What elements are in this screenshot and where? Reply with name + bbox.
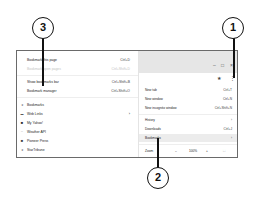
divider bbox=[139, 114, 238, 115]
chevron-right-icon: › bbox=[129, 110, 130, 118]
menu-item-bookmarks[interactable]: Bookmarks › bbox=[139, 134, 238, 142]
menu-item-downloads[interactable]: Downloads Ctrl+J bbox=[139, 125, 238, 133]
menu-item-new-tab[interactable]: New tab Ctrl+T bbox=[139, 86, 238, 94]
bookmark-item-my-yahoo[interactable]: ■ My Yahoo! bbox=[17, 119, 138, 127]
browser-menu-panel: – □ × ★ ⋮ New tab Ctrl+T New window Ctrl… bbox=[138, 51, 238, 157]
star-icon: ★ bbox=[20, 148, 24, 152]
chevron-right-icon: › bbox=[231, 116, 232, 124]
menu-item-bookmark-open-pages: Bookmark open pages Ctrl+Shift+D bbox=[17, 65, 138, 73]
zoom-row: Zoom – 100% + ⛶ bbox=[139, 147, 238, 155]
browser-toolbar: ★ ⋮ bbox=[139, 75, 238, 83]
yahoo-icon: ■ bbox=[20, 121, 24, 125]
weather-icon: ~ bbox=[20, 130, 24, 134]
zoom-out-button[interactable]: – bbox=[175, 147, 177, 155]
minimize-button[interactable]: – bbox=[213, 62, 216, 68]
browser-titlebar: – □ × bbox=[139, 51, 238, 73]
bookmark-item-web-links[interactable]: ▬ Web Links › bbox=[17, 110, 138, 118]
fullscreen-icon[interactable]: ⛶ bbox=[223, 147, 225, 155]
callout-2: 2 bbox=[147, 167, 169, 189]
bookmark-item-bookmarks[interactable]: ★ Bookmarks bbox=[17, 101, 138, 109]
callout-line-2 bbox=[157, 138, 159, 168]
callout-1: 1 bbox=[222, 17, 244, 39]
menu-item-bookmark-this-page[interactable]: Bookmark this page Ctrl+D bbox=[17, 56, 138, 64]
bookmark-star-icon[interactable]: ★ bbox=[217, 75, 221, 81]
menu-item-history[interactable]: History › bbox=[139, 116, 238, 124]
callout-line-1 bbox=[233, 36, 235, 78]
menu-item-show-bookmarks-bar[interactable]: Show bookmarks bar Ctrl+Shift+B bbox=[17, 78, 138, 86]
menu-item-bookmark-manager[interactable]: Bookmark manager Ctrl+Shift+O bbox=[17, 87, 138, 95]
menu-item-new-window[interactable]: New window Ctrl+N bbox=[139, 95, 238, 103]
star-icon: ★ bbox=[20, 103, 24, 107]
zoom-level: 100% bbox=[189, 147, 197, 155]
divider bbox=[139, 144, 238, 145]
divider bbox=[17, 75, 138, 76]
callout-3: 3 bbox=[32, 17, 54, 39]
bookmark-item-startribune[interactable]: ★ StarTribune bbox=[17, 146, 138, 154]
zoom-in-button[interactable]: + bbox=[206, 147, 208, 155]
bookmarks-submenu: Bookmark this page Ctrl+D Bookmark open … bbox=[17, 51, 138, 157]
chevron-right-icon: › bbox=[231, 134, 232, 142]
bookmark-item-weather-api[interactable]: ~ Weather API bbox=[17, 128, 138, 136]
screenshot-frame: Bookmark this page Ctrl+D Bookmark open … bbox=[16, 50, 238, 158]
bookmark-item-pioneer-press[interactable]: ■ Pioneer Press bbox=[17, 137, 138, 145]
zoom-label: Zoom bbox=[145, 147, 153, 155]
folder-icon: ▬ bbox=[20, 112, 24, 116]
callout-line-3 bbox=[42, 36, 44, 86]
maximize-button[interactable]: □ bbox=[221, 62, 224, 68]
divider bbox=[17, 97, 138, 98]
pioneer-press-icon: ■ bbox=[20, 139, 24, 143]
menu-item-new-incognito-window[interactable]: New incognito window Ctrl+Shift+N bbox=[139, 104, 238, 112]
